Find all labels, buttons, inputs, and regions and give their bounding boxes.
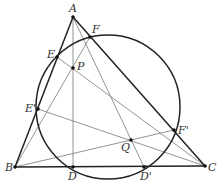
label-F: F — [91, 23, 100, 36]
label-E: E — [46, 48, 55, 61]
point-C — [203, 164, 207, 168]
point-D-prime — [142, 165, 146, 169]
label-C: C — [208, 161, 217, 174]
point-D — [71, 165, 75, 169]
label-A: A — [68, 2, 77, 15]
geometry-diagram: AFEPE'BDD'QF'C — [0, 0, 222, 190]
point-E — [55, 55, 59, 59]
point-labels: AFEPE'BDD'QF'C — [4, 2, 217, 183]
point-B — [13, 165, 17, 169]
label-D: D — [67, 170, 77, 183]
label-Q: Q — [121, 141, 130, 154]
segment-BC — [15, 166, 205, 167]
label-F-prime: F' — [177, 124, 189, 137]
segment-BFp — [15, 130, 174, 167]
point-A — [71, 15, 75, 19]
label-D-prime: D' — [139, 170, 152, 183]
label-E-prime: E' — [24, 102, 36, 115]
label-P: P — [76, 60, 85, 73]
label-B: B — [4, 161, 13, 174]
point-F-prime — [172, 128, 176, 132]
point-P — [71, 66, 75, 70]
segment-EC — [57, 57, 205, 166]
point-E-prime — [36, 107, 40, 111]
segment-AB — [15, 17, 73, 167]
